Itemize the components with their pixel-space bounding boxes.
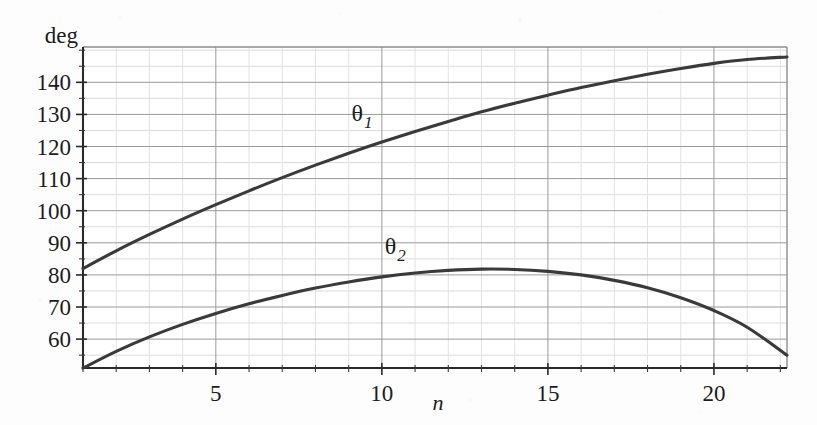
y-axis-tick-labels: 60708090100110120130140 — [37, 70, 72, 352]
figure-container: 60708090100110120130140 5101520 deg n θ1… — [0, 0, 817, 425]
y-tick-label: 110 — [37, 167, 71, 192]
series-label-subscript: 2 — [397, 246, 406, 265]
line-chart: 60708090100110120130140 5101520 deg n θ1… — [0, 0, 817, 425]
plot-background — [83, 47, 787, 368]
x-tick-label: 20 — [702, 381, 725, 406]
y-tick-label: 80 — [48, 263, 71, 288]
series-label-subscript: 1 — [364, 113, 373, 132]
y-tick-label: 130 — [37, 102, 72, 127]
x-axis-label: n — [433, 390, 444, 415]
x-tick-label: 5 — [210, 381, 222, 406]
y-tick-label: 140 — [37, 70, 72, 95]
y-tick-label: 60 — [48, 327, 71, 352]
y-tick-label: 100 — [37, 199, 72, 224]
y-tick-label: 90 — [48, 231, 71, 256]
y-axis-label: deg — [45, 23, 79, 48]
x-axis-tick-labels: 5101520 — [210, 381, 725, 406]
y-tick-label: 120 — [37, 135, 72, 160]
x-tick-label: 15 — [536, 381, 559, 406]
y-tick-label: 70 — [48, 295, 71, 320]
x-tick-label: 10 — [370, 381, 393, 406]
